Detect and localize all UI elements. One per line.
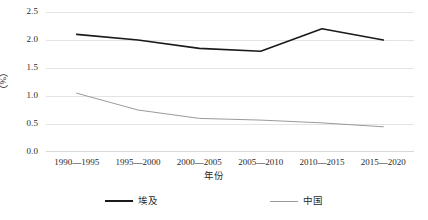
legend-line-icon <box>105 200 133 202</box>
y-axis-tick-label: 1.5 <box>26 63 38 72</box>
y-axis-tick-label: 2.0 <box>26 35 38 44</box>
legend-line-icon <box>270 201 298 202</box>
chart-legend: 埃及中国 <box>0 192 428 210</box>
legend-item[interactable]: 中国 <box>270 196 323 206</box>
plot-area <box>46 12 414 152</box>
series-line <box>77 93 384 127</box>
y-axis-tick-label: 0.0 <box>26 147 38 156</box>
line-chart: （%） 2.52.01.51.00.50.0 1990—19951995—200… <box>0 0 428 220</box>
legend-label: 埃及 <box>138 196 158 206</box>
legend-label: 中国 <box>303 196 323 206</box>
x-axis-title: 年份 <box>0 170 428 182</box>
y-axis-tick-label: 1.0 <box>26 91 38 100</box>
y-axis-tick-label: 0.5 <box>26 119 38 128</box>
series-lines <box>46 12 414 152</box>
y-axis-tick-labels: 2.52.01.51.00.50.0 <box>0 0 42 220</box>
y-axis-tick-label: 2.5 <box>26 7 38 16</box>
legend-item[interactable]: 埃及 <box>105 196 158 206</box>
series-line <box>77 29 384 51</box>
